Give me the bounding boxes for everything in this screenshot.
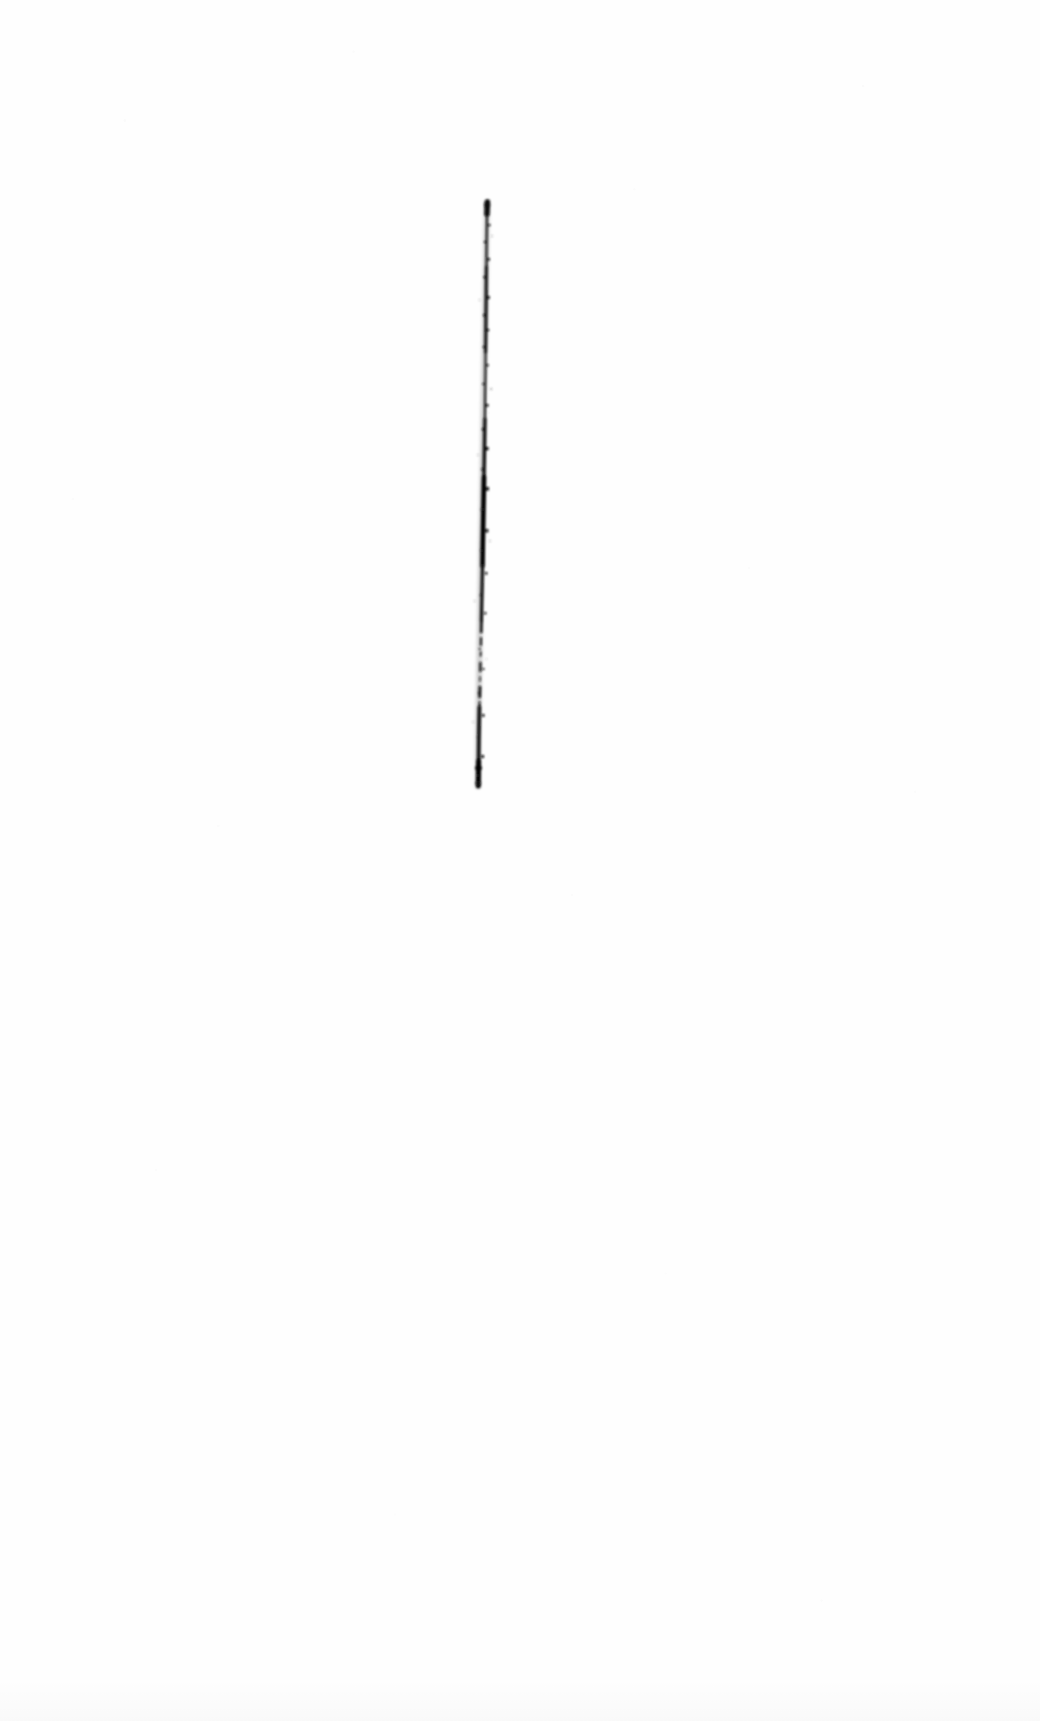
scanned-page [0,0,1040,1721]
ink-artwork-layer [0,0,1040,1721]
vertical-ink-line-svg [0,0,1040,1721]
